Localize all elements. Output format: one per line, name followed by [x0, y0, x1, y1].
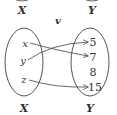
- top-left-ellipse-fragment: [12, 0, 32, 1]
- top-right-ellipse-fragment: [82, 0, 102, 1]
- codomain-element-7: 7: [90, 51, 97, 64]
- top-label-y: Y: [88, 4, 97, 17]
- top-label-x: X: [17, 4, 27, 17]
- codomain-element-8: 8: [90, 66, 97, 79]
- arrow-x-to-7: [30, 43, 88, 56]
- domain-element-y: y: [19, 55, 26, 66]
- domain-label: X: [19, 102, 29, 115]
- domain-element-z: z: [20, 74, 27, 85]
- codomain-element-15: 15: [88, 81, 102, 94]
- domain-element-x: x: [22, 38, 28, 49]
- function-name-label: v: [55, 15, 61, 26]
- mapping-diagram: X Y v x y z 5 7 8 15 X Y: [0, 0, 117, 115]
- codomain-element-5: 5: [90, 36, 97, 49]
- codomain-label: Y: [86, 102, 95, 115]
